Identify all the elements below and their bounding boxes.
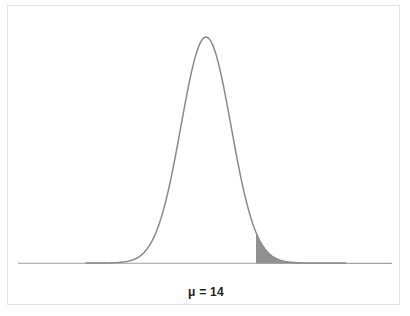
- mean-label: μ = 14: [0, 285, 410, 299]
- mean-label-text: μ = 14: [188, 285, 224, 299]
- plot-frame: [7, 5, 400, 305]
- distribution-figure: μ = 14: [0, 0, 410, 316]
- caption-partial-text: [0, 308, 410, 316]
